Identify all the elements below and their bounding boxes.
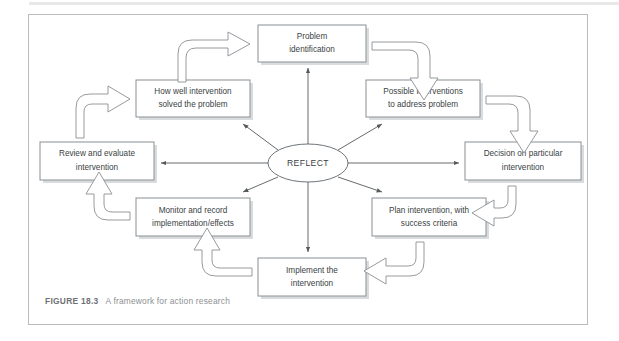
node-label-line2: intervention (291, 279, 334, 288)
node-box (136, 80, 250, 117)
node-label-line2: intervention (502, 163, 545, 172)
node-plan-intervention: Plan intervention, with success criteria (372, 198, 489, 239)
spoke-to-monitor (243, 177, 278, 192)
spoke-to-possible-interventions (338, 124, 382, 150)
node-box (372, 198, 486, 236)
node-box (258, 25, 366, 62)
node-implement-the-intervention: Implement the intervention (258, 258, 369, 299)
node-label-line1: How well intervention (154, 87, 232, 96)
node-label-line1: Plan intervention, with (389, 206, 470, 215)
figure-caption: FIGURE 18.3A framework for action resear… (45, 296, 545, 306)
node-label-line2: identification (289, 45, 335, 54)
node-label-line2: intervention (76, 163, 119, 172)
spoke-to-plan-intervention (338, 177, 382, 192)
node-box (40, 142, 154, 180)
arrow-howwell-to-problem (178, 32, 250, 82)
node-box (258, 258, 366, 296)
node-label-line1: Monitor and record (159, 206, 228, 215)
node-monitor-and-record: Monitor and record implementation/effect… (136, 198, 253, 239)
node-label-line1: Problem (297, 32, 328, 41)
node-label-line1: Implement the (286, 266, 338, 275)
action-research-framework-diagram: Problem identification Possible interven… (0, 0, 619, 341)
node-label-line2: success criteria (401, 219, 458, 228)
arrow-plan-to-implement (364, 242, 424, 284)
node-how-well-intervention-solved: How well intervention solved the problem (136, 80, 253, 120)
figure-root: Problem identification Possible interven… (0, 0, 619, 341)
figure-caption-label: FIGURE 18.3 (45, 296, 99, 306)
spoke-to-how-well (243, 124, 278, 150)
node-box (136, 198, 250, 236)
node-problem-identification: Problem identification (258, 25, 369, 65)
reflect-label: REFLECT (287, 158, 329, 168)
node-label-line2: to address problem (388, 100, 458, 109)
center-node-reflect: REFLECT (268, 144, 348, 182)
arrow-review-to-howwell (76, 86, 130, 138)
node-label-line1: Review and evaluate (59, 149, 135, 158)
figure-caption-text: A framework for action research (106, 296, 230, 306)
node-label-line2: solved the problem (158, 100, 227, 109)
node-label-line2: implementation/effects (152, 219, 234, 228)
